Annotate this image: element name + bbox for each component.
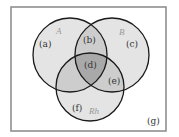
region-a-label: (a) (39, 39, 51, 49)
region-b-label: (b) (83, 35, 96, 45)
region-f-label: (f) (72, 103, 82, 113)
venn-diagram: A B Rh (a) (b) (c) (d) (e) (f) (g) (0, 0, 179, 137)
set-rh-name: Rh (88, 106, 99, 116)
set-b-name: B (119, 27, 125, 37)
region-c-label: (c) (126, 39, 138, 49)
region-e-label: (e) (108, 76, 120, 86)
region-d-label: (d) (84, 60, 97, 70)
region-g-label: (g) (147, 116, 160, 126)
set-a-name: A (55, 26, 62, 36)
